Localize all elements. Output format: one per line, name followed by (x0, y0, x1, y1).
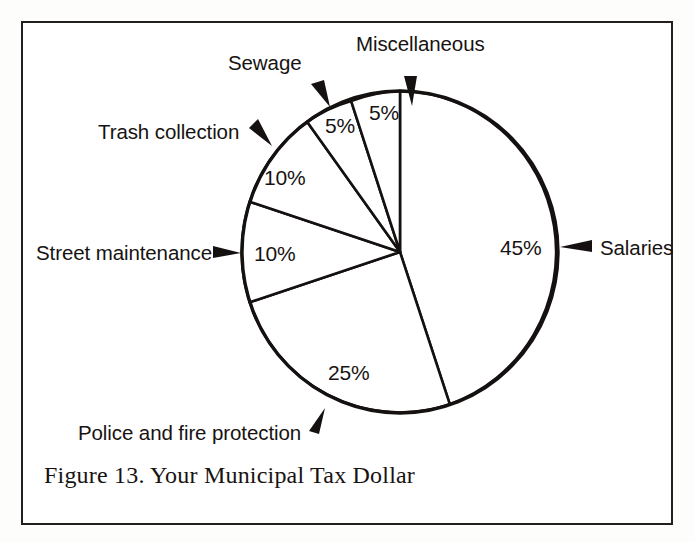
arrow-down-right-icon-trash (249, 119, 272, 146)
arrow-up-right-icon-police (309, 408, 325, 434)
pie-value-label-sewage: 5% (325, 115, 355, 136)
pie-value-label-trash-collection: 10% (264, 167, 305, 188)
figure-caption: Figure 13. Your Municipal Tax Dollar (44, 462, 415, 489)
figure-page: 45% 25% 10% 10% 5% 5% Salaries Miscellan… (0, 0, 695, 542)
pie-category-label-police-fire: Police and fire protection (78, 423, 301, 444)
pie-category-label-miscellaneous: Miscellaneous (356, 34, 485, 55)
pie-value-label-salaries: 45% (500, 237, 541, 258)
arrow-right-icon-street (213, 246, 241, 258)
pie-category-label-salaries: Salaries (600, 238, 673, 259)
pie-chart-graphic (0, 0, 695, 542)
pie-category-label-sewage: Sewage (228, 53, 301, 74)
arrow-down-right-icon-sewage (311, 80, 330, 107)
pie-category-label-trash-collection: Trash collection (98, 122, 239, 143)
pie-value-label-street-maintenance: 10% (254, 243, 295, 264)
arrow-left-icon (560, 240, 592, 252)
pie-category-label-street-maintenance: Street maintenance (36, 243, 212, 264)
pie-value-label-police-fire: 25% (328, 362, 369, 383)
pie-value-label-miscellaneous: 5% (369, 102, 399, 123)
